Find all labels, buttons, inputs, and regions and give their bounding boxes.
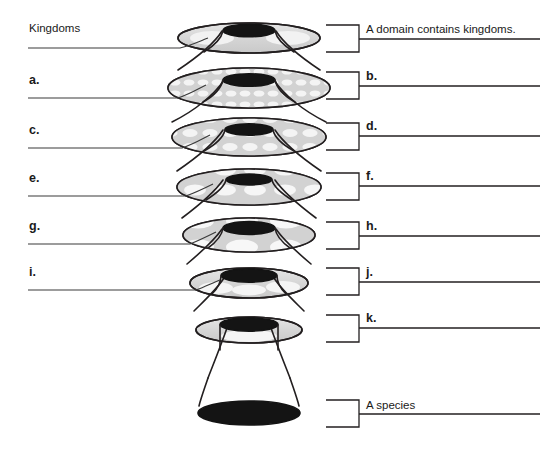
- right-label-b: b.: [366, 69, 377, 83]
- right-label-domain: A domain contains kingdoms.: [366, 23, 516, 35]
- right-label-d: d.: [366, 119, 377, 133]
- left-label-kingdoms: Kingdoms: [29, 22, 80, 34]
- funnel-level-2: [168, 68, 330, 122]
- right-label-species: A species: [366, 399, 415, 411]
- left-label-c: c.: [29, 123, 39, 137]
- funnel-level-4: [177, 169, 321, 218]
- right-label-j: j.: [366, 265, 373, 279]
- right-label-k: k.: [366, 311, 376, 325]
- left-label-a: a.: [29, 73, 39, 87]
- diagram-canvas: Kingdoms a. c. e. g. i. A domain contain…: [0, 0, 558, 450]
- funnel-level-5: [183, 218, 315, 264]
- funnel-level-6: [190, 268, 308, 311]
- funnel-level-7: [196, 317, 302, 378]
- left-label-e: e.: [29, 171, 39, 185]
- right-label-f: f.: [366, 169, 374, 183]
- funnel-level-1: [178, 23, 320, 70]
- right-label-h: h.: [366, 219, 377, 233]
- left-label-g: g.: [29, 219, 40, 233]
- funnel-level-8-species: [198, 378, 300, 425]
- funnel-level-3: [172, 118, 326, 171]
- right-brackets: [326, 25, 540, 427]
- taxonomy-funnel-svg: [0, 0, 558, 450]
- left-label-i: i.: [29, 265, 36, 279]
